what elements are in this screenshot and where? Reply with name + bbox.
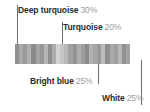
diagram-canvas: Deep turquoise30% Turquoise20% Bright bl… — [0, 0, 150, 112]
callout-bright-blue: Bright blue25% — [30, 76, 92, 86]
callout-name-turquoise: Turquoise — [63, 22, 103, 32]
callout-turquoise: Turquoise20% — [63, 22, 121, 32]
callout-percent-deep-turquoise: 30% — [80, 5, 97, 15]
callout-deep-turquoise: Deep turquoise30% — [18, 5, 97, 15]
callout-white: White25% — [102, 93, 143, 103]
callout-name-deep-turquoise: Deep turquoise — [18, 5, 78, 15]
color-proportion-bar — [15, 44, 130, 64]
callout-name-bright-blue: Bright blue — [30, 76, 74, 86]
color-stripe — [126, 44, 130, 64]
callout-percent-white: 25% — [127, 93, 144, 103]
callout-name-white: White — [102, 93, 125, 103]
callout-percent-turquoise: 20% — [105, 22, 122, 32]
callout-percent-bright-blue: 25% — [76, 76, 93, 86]
